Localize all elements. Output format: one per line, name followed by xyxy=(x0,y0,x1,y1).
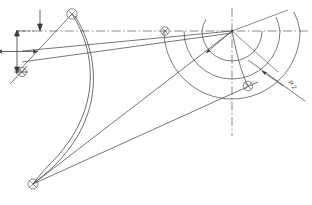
drawing-svg: R 2 xyxy=(0,0,312,205)
arc-outer-upper-stub xyxy=(294,12,300,31)
vertical-dimension xyxy=(0,31,38,72)
right-sweep-arc xyxy=(232,31,248,86)
construction-lines xyxy=(10,14,258,184)
ray-apex-to-left xyxy=(16,14,72,74)
arc-center-point xyxy=(231,30,233,32)
point-top-apex xyxy=(67,9,77,19)
arc-secondary-sweep xyxy=(33,16,93,184)
ray-down-right xyxy=(232,31,278,72)
sweeping-arcs xyxy=(33,14,93,184)
radius-leader-arrowhead xyxy=(262,71,283,86)
point-lower-right xyxy=(243,81,253,91)
leader-arrow-head xyxy=(38,24,43,31)
point-markers xyxy=(17,9,252,189)
point-bottom-left xyxy=(28,179,38,189)
arc-lowerright-sweep xyxy=(232,31,248,86)
arc-inner-upper-stub xyxy=(202,19,206,31)
tangent-line-lower xyxy=(22,33,232,62)
leader-arrow-top xyxy=(38,10,43,31)
arc-middle-upper-stub xyxy=(276,17,280,31)
technical-drawing-canvas: R 2 xyxy=(0,0,312,205)
